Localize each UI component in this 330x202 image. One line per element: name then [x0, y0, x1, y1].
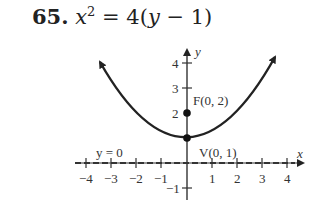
y-tick-label-neg1: −1: [166, 181, 180, 196]
focus-point: [183, 109, 191, 117]
x-tick-label-1: 1: [209, 171, 216, 186]
y-axis-label: y: [193, 44, 201, 59]
x-tick-label-2: 2: [234, 171, 241, 186]
y-tick-label-3: 3: [172, 81, 179, 96]
directrix-label: y = 0: [96, 145, 123, 160]
vertex-label: V(0, 1): [199, 145, 237, 160]
focus-label: F(0, 2): [193, 93, 228, 108]
parabola-graph: y x 4 3 2 −1 −4 −3 −2 −1 1 2 3 4 F(0, 2)…: [0, 0, 330, 202]
x-tick-label-3: 3: [259, 171, 266, 186]
x-axis-label: x: [296, 146, 303, 161]
y-tick-label-4: 4: [172, 56, 179, 71]
x-tick-label-neg1: −1: [154, 171, 168, 186]
x-tick-label-4: 4: [284, 171, 291, 186]
y-tick-label-2: 2: [172, 106, 179, 121]
vertex-point: [183, 134, 191, 142]
x-tick-label-neg4: −4: [79, 171, 93, 186]
x-tick-label-neg3: −3: [104, 171, 118, 186]
x-tick-label-neg2: −2: [129, 171, 143, 186]
